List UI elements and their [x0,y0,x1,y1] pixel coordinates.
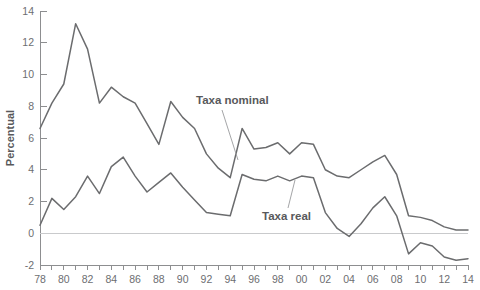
x-tick-label: 00 [296,273,308,285]
x-tick-label: 84 [105,273,117,285]
y-tick-label: 8 [28,100,34,112]
x-tick-label: 92 [201,273,213,285]
x-tick-label: 86 [129,273,141,285]
x-tick-label: 96 [248,273,260,285]
x-tick-label: 14 [462,273,474,285]
y-tick-label: -2 [25,259,34,271]
x-tick-label: 12 [438,273,450,285]
x-tick-label: 78 [34,273,46,285]
y-axis-title: Percentual [4,110,16,166]
x-tick-label: 82 [82,273,94,285]
x-tick-label: 08 [391,273,403,285]
y-tick-label: 0 [28,227,34,239]
y-tick-label: 10 [22,68,34,80]
chart-container: -202468101214 78808284868890929496980002… [0,0,480,290]
x-tick-label: 90 [177,273,189,285]
y-tick-label: 6 [28,132,34,144]
y-tick-label: 12 [22,36,34,48]
x-tick-label: 02 [319,273,331,285]
y-tick-label: 2 [28,195,34,207]
x-tick-label: 80 [58,273,70,285]
annotation-label: Taxa real [262,210,311,222]
x-tick-label: 04 [343,273,355,285]
annotation-label: Taxa nominal [196,94,269,106]
x-tick-label: 06 [367,273,379,285]
x-tick-label: 94 [224,273,236,285]
y-tick-label: 4 [28,163,34,175]
x-tick-label: 98 [272,273,284,285]
line-chart: -202468101214 78808284868890929496980002… [0,0,480,290]
x-tick-label: 88 [153,273,165,285]
x-tick-label: 10 [415,273,427,285]
y-tick-label: 14 [22,5,34,17]
